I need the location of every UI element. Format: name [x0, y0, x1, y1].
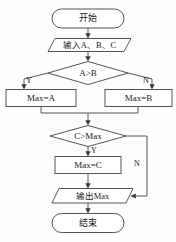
arrowhead-merge-to-decision-cmax — [85, 120, 90, 125]
max-c-label: Max=C — [55, 161, 121, 170]
arrowhead-input-to-decision-ab — [85, 56, 90, 61]
branch-label-cmax-no: N — [134, 160, 140, 168]
arrowhead-output-to-end — [85, 208, 90, 213]
branch-label-cmax-yes: Y — [91, 147, 97, 155]
arrowhead-start-to-input — [85, 33, 90, 38]
output-label: 输出Max — [52, 192, 133, 201]
start-label: 开始 — [52, 14, 124, 23]
branch-label-ab-no: N — [143, 77, 149, 85]
input-label: 输入A、B、C — [48, 41, 131, 50]
decision-cmax-label: C>Max — [58, 132, 118, 141]
branch-label-ab-yes: Y — [26, 77, 32, 85]
flowchart-canvas: 开始 输入A、B、C A>B Y N Max=A Max=B C>Max Y N… — [0, 0, 176, 242]
arrowhead-max-c-to-output — [85, 183, 90, 188]
max-a-label: Max=A — [6, 94, 76, 103]
flowchart-svg — [0, 0, 176, 242]
decision-ab-label: A>B — [58, 69, 118, 78]
arrowhead-ab-no — [149, 84, 154, 89]
max-b-label: Max=B — [105, 94, 172, 103]
end-label: 结束 — [52, 219, 124, 228]
arrowhead-cmax-yes — [85, 151, 90, 156]
